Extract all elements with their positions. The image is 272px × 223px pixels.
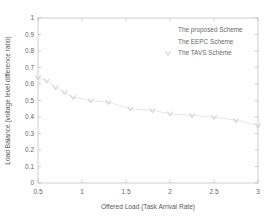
y-tick-label: 0.3 bbox=[25, 130, 34, 137]
y-tick-label: 0.2 bbox=[25, 146, 34, 153]
y-tick-label: 0.4 bbox=[25, 113, 34, 120]
y-tick-label: 1 bbox=[30, 14, 34, 21]
x-tick-label: 0.5 bbox=[34, 188, 43, 195]
x-tick-label: 2.5 bbox=[210, 188, 219, 195]
y-tick-label: 0.9 bbox=[25, 31, 34, 38]
x-tick-label: 2 bbox=[168, 188, 172, 195]
y-tick-label: 0.6 bbox=[25, 80, 34, 87]
x-tick-label: 3 bbox=[256, 188, 260, 195]
legend-label: The TAVS Scheme bbox=[178, 49, 232, 56]
chart-figure: 0.511.522.5300.10.20.30.40.50.60.70.80.9… bbox=[0, 0, 272, 223]
chart-legend: The proposed SchemeThe EEPC SchemeThe TA… bbox=[165, 26, 243, 56]
legend-label: The EEPC Scheme bbox=[178, 38, 234, 45]
y-tick-label: 0.1 bbox=[25, 163, 34, 170]
y-tick-label: 0.5 bbox=[25, 97, 34, 104]
x-tick-label: 1 bbox=[80, 188, 84, 195]
y-axis-title: Load Balance (voltage level difference r… bbox=[4, 36, 12, 165]
x-axis-title: Offered Load (Task Arrival Rate) bbox=[101, 203, 195, 211]
legend-label: The proposed Scheme bbox=[178, 26, 243, 34]
y-tick-label: 0 bbox=[30, 179, 34, 186]
legend-marker bbox=[165, 51, 170, 55]
x-tick-label: 1.5 bbox=[122, 188, 131, 195]
y-tick-label: 0.8 bbox=[25, 47, 34, 54]
series-2 bbox=[35, 75, 260, 127]
series-line bbox=[38, 77, 258, 125]
chart-canvas: 0.511.522.5300.10.20.30.40.50.60.70.80.9… bbox=[0, 0, 272, 223]
y-tick-label: 0.7 bbox=[25, 64, 34, 71]
